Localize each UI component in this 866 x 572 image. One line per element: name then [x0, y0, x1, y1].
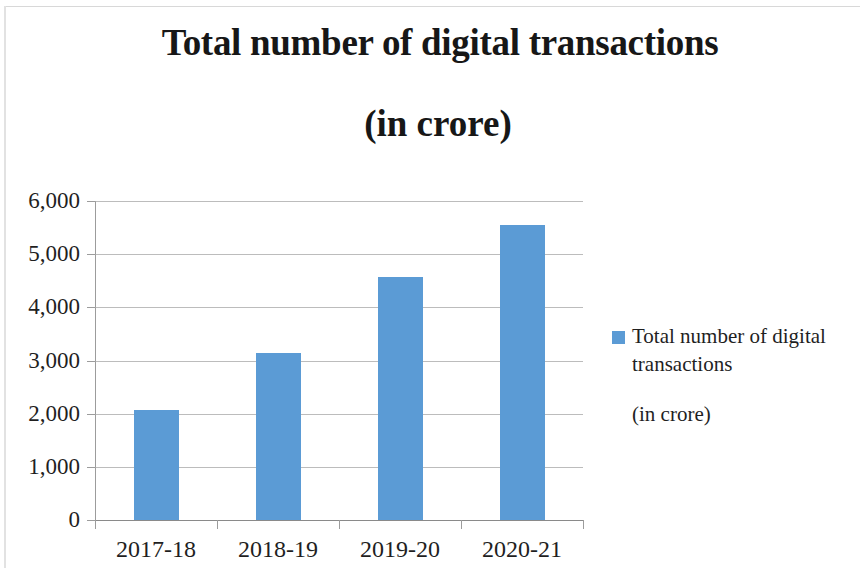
x-axis-tick	[583, 520, 584, 529]
chart-figure: Total number of digital transactions (in…	[0, 0, 866, 572]
y-axis-tick-label: 5,000	[2, 242, 80, 265]
legend-series-sublabel: (in crore)	[612, 400, 860, 428]
legend-entry: Total number of digital transactions	[612, 322, 860, 378]
bar[interactable]	[500, 225, 545, 520]
y-axis-tick	[87, 520, 95, 521]
x-axis-tick-label: 2020-21	[461, 533, 583, 565]
y-axis-tick	[87, 361, 95, 362]
plot-wrapper: 6,0005,0004,0003,0002,0001,0000 2017-182…	[0, 0, 866, 572]
bar[interactable]	[378, 277, 423, 520]
x-axis-labels: 2017-182018-192019-202020-21	[95, 533, 583, 572]
y-axis-tick	[87, 254, 95, 255]
x-axis-tick-label: 2017-18	[95, 533, 217, 565]
y-axis-tick-label: 6,000	[2, 189, 80, 212]
x-axis-tick	[339, 520, 340, 529]
y-axis-tick	[87, 201, 95, 202]
chart-legend: Total number of digital transactions (in…	[612, 322, 860, 428]
x-axis-tick	[217, 520, 218, 529]
x-axis-tick	[461, 520, 462, 529]
gridline	[95, 201, 583, 202]
legend-square-icon	[612, 331, 625, 344]
legend-series-label: Total number of digital transactions	[612, 322, 860, 378]
y-axis-tick-label: 1,000	[2, 455, 80, 478]
y-axis-tick	[87, 467, 95, 468]
y-axis-tick-label: 3,000	[2, 349, 80, 372]
y-axis-tick-label: 0	[2, 508, 80, 531]
y-axis-tick	[87, 414, 95, 415]
plot-area	[95, 201, 583, 520]
y-axis-tick-label: 2,000	[2, 402, 80, 425]
y-axis-tick-label: 4,000	[2, 295, 80, 318]
x-axis-tick-label: 2018-19	[217, 533, 339, 565]
x-axis-tick	[95, 520, 96, 529]
bar[interactable]	[134, 410, 179, 520]
y-axis-labels: 6,0005,0004,0003,0002,0001,0000	[0, 201, 80, 520]
x-axis-tick-label: 2019-20	[339, 533, 461, 565]
bar[interactable]	[256, 353, 301, 520]
y-axis-tick	[87, 307, 95, 308]
